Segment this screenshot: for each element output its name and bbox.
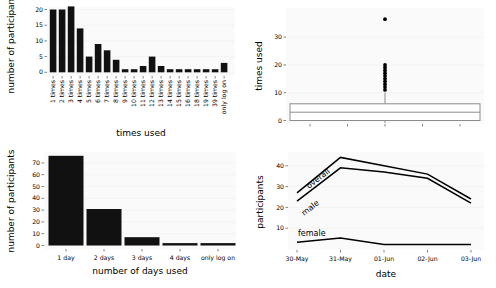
y-tick-label: 5 bbox=[39, 53, 43, 60]
x-axis-title: times used bbox=[116, 128, 166, 138]
y-tick-label: 10 bbox=[274, 89, 282, 96]
y-tick-label: 20 bbox=[276, 204, 284, 211]
times-used-box-chart: 0 10 20 30 times used bbox=[248, 0, 496, 144]
x-tick-label: 03-Jun bbox=[461, 255, 481, 263]
days-used-bar-chart: 0 10 20 30 40 50 60 70 1 day 2 days 3 da… bbox=[0, 144, 248, 288]
x-tick-label: 12 times bbox=[148, 80, 155, 107]
plot-area bbox=[47, 7, 235, 76]
y-tick-label: 20 bbox=[274, 61, 282, 68]
y-tick-label: 20 bbox=[32, 218, 40, 225]
x-tick-label: 3 times bbox=[67, 80, 74, 103]
x-tick-label: only log on bbox=[201, 254, 235, 262]
y-tick-label: 0 bbox=[39, 68, 43, 75]
y-tick-label: 10 bbox=[35, 37, 43, 44]
y-axis-title: times used bbox=[254, 41, 264, 91]
x-tick-label: 5 times bbox=[85, 80, 92, 103]
panel-times-used-bar: 0 5 10 15 20 1 times 2 times bbox=[0, 0, 248, 144]
y-axis-title: number of participants bbox=[6, 149, 16, 252]
y-axis-title: participants bbox=[255, 175, 265, 229]
x-tick-label: 6 times bbox=[94, 80, 101, 103]
x-tick-label: 02-Jun bbox=[417, 255, 437, 263]
y-tick-label: 15 bbox=[35, 21, 43, 28]
x-tick-label: 2 times bbox=[58, 80, 65, 103]
y-tick-label: 30 bbox=[276, 183, 284, 190]
y-tick-label: 40 bbox=[276, 162, 284, 169]
x-tick-label: 30-May bbox=[286, 255, 309, 263]
x-tick-label: 13 times bbox=[157, 80, 164, 107]
panel-times-used-box: 0 10 20 30 times used bbox=[248, 0, 496, 144]
y-tick-label: 50 bbox=[32, 183, 40, 190]
panel-days-used-bar: 0 10 20 30 40 50 60 70 1 day 2 days 3 da… bbox=[0, 144, 248, 288]
series-label-female: female bbox=[298, 229, 326, 238]
x-tick-label: 31-May bbox=[329, 255, 352, 263]
y-tick-label: 60 bbox=[32, 171, 40, 178]
panel-participants-line: overall male female 10 20 30 40 bbox=[248, 144, 496, 288]
x-tick-label: only log on bbox=[220, 80, 228, 114]
x-tick-label: 18 times bbox=[193, 80, 200, 107]
y-tick-label: 20 bbox=[35, 6, 43, 13]
x-tick-label: 1 day bbox=[57, 254, 75, 262]
x-tick-label: 39 times bbox=[211, 80, 218, 107]
times-used-bar-chart: 0 5 10 15 20 1 times 2 times bbox=[0, 0, 248, 144]
x-tick-label: 2 days bbox=[94, 254, 115, 262]
x-axis-title: number of days used bbox=[92, 266, 187, 276]
y-tick-label: 70 bbox=[32, 159, 40, 166]
x-tick-label: 4 days bbox=[170, 254, 191, 262]
x-tick-label: 19 times bbox=[202, 80, 209, 107]
y-axis-title: number of participants bbox=[6, 0, 16, 94]
x-tick-label: 3 days bbox=[132, 254, 153, 262]
y-tick-label: 30 bbox=[32, 206, 40, 213]
y-tick-label: 0 bbox=[36, 242, 40, 249]
x-tick-label: 16 times bbox=[184, 80, 191, 107]
x-tick-label: 11 times bbox=[139, 80, 146, 107]
x-axis-title: date bbox=[376, 269, 397, 279]
x-tick-label: 8 times bbox=[112, 80, 119, 103]
y-tick-label: 40 bbox=[32, 194, 40, 201]
x-tick-label: 01-Jun bbox=[374, 255, 394, 263]
y-tick-label: 10 bbox=[276, 224, 284, 231]
x-tick-label: 14 times bbox=[166, 80, 173, 107]
y-tick-label: 10 bbox=[32, 230, 40, 237]
x-tick-label: 1 times bbox=[49, 80, 56, 103]
x-tick-label: 4 times bbox=[76, 80, 83, 103]
x-tick-label: 10 times bbox=[130, 80, 137, 107]
x-tick-label: 15 times bbox=[175, 80, 182, 107]
participants-line-chart: overall male female 10 20 30 40 bbox=[248, 144, 496, 288]
y-tick-label: 0 bbox=[278, 117, 282, 124]
y-tick-label: 30 bbox=[274, 33, 282, 40]
figure-grid: 0 5 10 15 20 1 times 2 times bbox=[0, 0, 496, 288]
x-tick-label: 7 times bbox=[103, 80, 110, 103]
x-tick-label: 9 times bbox=[121, 80, 128, 103]
